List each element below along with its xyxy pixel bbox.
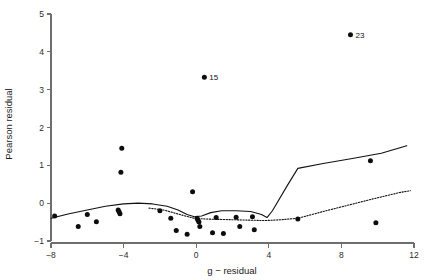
data-point [237, 224, 242, 229]
data-point [118, 170, 123, 175]
x-tick-label: −8 [46, 250, 56, 260]
x-tick-labels: −8−404812 [46, 250, 419, 260]
x-tick-label: 4 [266, 250, 271, 260]
y-axis-group: −1012345 [34, 9, 51, 246]
x-tick-marks [51, 243, 414, 248]
y-tick-label: 5 [39, 9, 44, 19]
data-point [174, 228, 179, 233]
data-point [214, 215, 219, 220]
data-point [76, 224, 81, 229]
data-point [250, 214, 255, 219]
data-point [234, 215, 239, 220]
data-point [119, 146, 124, 151]
x-tick-label: 0 [194, 250, 199, 260]
data-point [196, 218, 201, 223]
y-tick-labels: −1012345 [34, 9, 44, 246]
y-tick-label: 4 [39, 47, 44, 57]
data-point [157, 208, 162, 213]
plot-canvas: −1012345 −8−404812 1523 g − residual Pea… [0, 0, 431, 280]
curve-dotted-fit [149, 191, 410, 221]
fitted-curves [51, 146, 410, 221]
data-point [185, 232, 190, 237]
y-tick-label: 3 [39, 85, 44, 95]
y-tick-label: −1 [34, 236, 44, 246]
x-tick-label: −4 [119, 250, 129, 260]
x-axis-group: −8−404812 [46, 243, 419, 260]
data-point [295, 217, 300, 222]
scatter-plot-figure: −1012345 −8−404812 1523 g − residual Pea… [0, 0, 431, 280]
y-tick-label: 2 [39, 123, 44, 133]
x-tick-label: 12 [409, 250, 419, 260]
y-tick-marks [47, 14, 51, 241]
data-point-labels: 1523 [209, 31, 365, 82]
data-point [348, 32, 353, 37]
x-tick-label: 8 [339, 250, 344, 260]
curve-solid-fit [51, 146, 407, 219]
data-point [85, 212, 90, 217]
x-axis-title: g − residual [207, 265, 256, 276]
data-point [94, 219, 99, 224]
data-point [221, 231, 226, 236]
data-point-label: 15 [209, 73, 218, 82]
data-point [52, 214, 57, 219]
data-point [190, 189, 195, 194]
data-point-label: 23 [355, 31, 364, 40]
y-tick-label: 0 [39, 198, 44, 208]
data-points [52, 32, 378, 236]
data-point [202, 75, 207, 80]
data-point [252, 227, 257, 232]
y-axis-title: Pearson residual [3, 88, 14, 159]
y-tick-label: 1 [39, 160, 44, 170]
data-point [197, 224, 202, 229]
data-point [117, 209, 122, 214]
data-point [210, 230, 215, 235]
data-point [373, 220, 378, 225]
data-point [168, 216, 173, 221]
data-point [368, 158, 373, 163]
